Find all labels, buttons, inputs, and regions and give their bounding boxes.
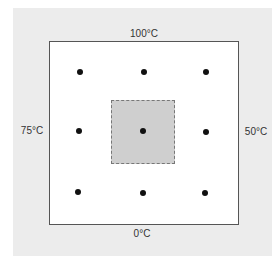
grid-point-dot: [75, 189, 81, 195]
grid-point-dot: [140, 128, 146, 134]
grid-point-dot: [141, 69, 147, 75]
right-boundary-label: 50°C: [245, 126, 267, 137]
grid-point-dot: [203, 69, 209, 75]
grid-point-dot: [140, 190, 146, 196]
grid-point-dot: [76, 128, 82, 134]
bottom-boundary-label: 0°C: [134, 228, 151, 239]
grid-point-dot: [77, 69, 83, 75]
grid-point-dot: [202, 190, 208, 196]
top-boundary-label: 100°C: [130, 28, 158, 39]
left-boundary-label: 75°C: [21, 125, 43, 136]
grid-point-dot: [203, 129, 209, 135]
